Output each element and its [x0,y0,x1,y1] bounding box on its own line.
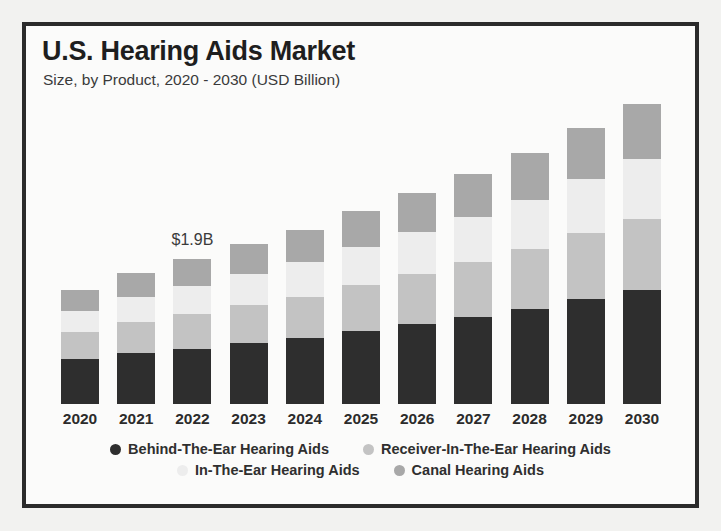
legend-color-dot-icon [394,465,405,476]
x-axis-label: 2022 [175,410,209,428]
bar-group[interactable]: 2029 [567,128,605,404]
bar-segment[interactable] [117,297,155,323]
bar-segment[interactable] [286,338,324,404]
chart-frame: U.S. Hearing Aids Market Size, by Produc… [22,22,699,508]
bar-segment[interactable] [173,314,211,348]
legend-label: In-The-Ear Hearing Aids [195,462,360,478]
bar-segment[interactable] [567,299,605,404]
bar-segment[interactable] [623,159,661,218]
legend-row: In-The-Ear Hearing AidsCanal Hearing Aid… [177,462,544,478]
plot-area: 202020212022$1.9B20232024202520262027202… [26,26,703,512]
bar-segment[interactable] [342,285,380,331]
bar-group[interactable]: 2023 [230,244,268,404]
bar-group[interactable]: 2020 [61,290,99,404]
bar-segment[interactable] [173,286,211,314]
bar-segment[interactable] [567,179,605,233]
x-axis-label: 2030 [625,410,659,428]
bar-group[interactable]: 2024 [286,230,324,404]
bar-segment[interactable] [173,259,211,286]
x-axis-label: 2027 [456,410,490,428]
bar-segment[interactable] [623,104,661,159]
bar-segment[interactable] [342,247,380,285]
bar-segment[interactable] [511,153,549,200]
bar-segment[interactable] [61,332,99,358]
bar-segment[interactable] [342,331,380,404]
chart-screenshot: U.S. Hearing Aids Market Size, by Produc… [0,0,721,531]
bar-group[interactable]: 2026 [398,193,436,404]
legend-label: Receiver-In-The-Ear Hearing Aids [381,441,611,457]
legend-row: Behind-The-Ear Hearing AidsReceiver-In-T… [110,441,611,457]
chart-inner: U.S. Hearing Aids Market Size, by Produc… [26,26,695,504]
bar-segment[interactable] [61,311,99,333]
bar-segment[interactable] [286,230,324,263]
x-axis-label: 2024 [288,410,322,428]
bar-group[interactable]: 2027 [454,174,492,404]
x-axis-label: 2028 [512,410,546,428]
bar-segment[interactable] [454,174,492,217]
bar-group[interactable]: 2025 [342,211,380,404]
bar-segment[interactable] [230,274,268,305]
bar-segment[interactable] [398,324,436,404]
bar-group[interactable]: 2021 [117,273,155,404]
bar-segment[interactable] [117,353,155,404]
bar-segment[interactable] [286,262,324,296]
bar-segment[interactable] [230,244,268,274]
legend-label: Canal Hearing Aids [412,462,544,478]
bar-segment[interactable] [117,322,155,353]
legend-color-dot-icon [177,465,188,476]
x-axis-label: 2025 [344,410,378,428]
bar-group[interactable]: 2028 [511,153,549,404]
bar-segment[interactable] [511,249,549,309]
bar-segment[interactable] [61,359,99,404]
bar-segment[interactable] [398,232,436,274]
chart-legend: Behind-The-Ear Hearing AidsReceiver-In-T… [26,441,695,478]
x-axis-label: 2029 [569,410,603,428]
bar-segment[interactable] [511,200,549,250]
bar-segment[interactable] [117,273,155,297]
bar-segment[interactable] [567,233,605,299]
legend-item[interactable]: Receiver-In-The-Ear Hearing Aids [363,441,611,457]
legend-color-dot-icon [110,444,121,455]
x-axis-label: 2026 [400,410,434,428]
bar-segment[interactable] [623,219,661,291]
bar-segment[interactable] [454,317,492,404]
legend-item[interactable]: In-The-Ear Hearing Aids [177,462,360,478]
bar-segment[interactable] [398,193,436,232]
bar-segment[interactable] [454,217,492,262]
bar-segment[interactable] [61,290,99,310]
bar-group[interactable]: 2022$1.9B [173,259,211,404]
x-axis-label: 2020 [63,410,97,428]
bar-segment[interactable] [286,297,324,339]
x-axis-label: 2023 [231,410,265,428]
bar-segment[interactable] [230,343,268,404]
bar-segment[interactable] [454,262,492,317]
bar-group[interactable]: 2030 [623,104,661,404]
data-label: $1.9B [171,231,213,249]
bar-segment[interactable] [342,211,380,247]
legend-color-dot-icon [363,444,374,455]
bar-segment[interactable] [230,305,268,343]
bar-segment[interactable] [398,274,436,324]
x-axis-label: 2021 [119,410,153,428]
bar-segment[interactable] [623,290,661,404]
legend-item[interactable]: Behind-The-Ear Hearing Aids [110,441,329,457]
bar-segment[interactable] [511,309,549,404]
legend-item[interactable]: Canal Hearing Aids [394,462,544,478]
bar-segment[interactable] [173,349,211,404]
legend-label: Behind-The-Ear Hearing Aids [128,441,329,457]
bar-segment[interactable] [567,128,605,179]
